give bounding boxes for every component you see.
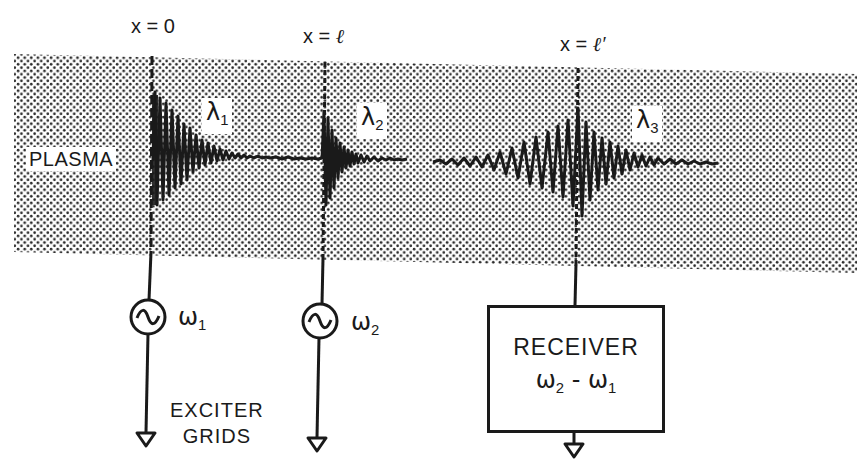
omega-symbol: ω [588, 366, 608, 394]
frequency-label-omega2: ω2 [351, 310, 379, 338]
lambda-subscript: 1 [220, 112, 228, 128]
ac-source-icon [131, 300, 165, 334]
exciter-label-line2: GRIDS [170, 423, 264, 449]
omega-symbol: ω [178, 303, 198, 331]
position-var: x [560, 33, 570, 55]
ac-source-icon [303, 304, 337, 338]
ground-icon [308, 438, 326, 451]
position-eq: = [141, 15, 164, 37]
position-value: ℓ′ [593, 33, 606, 55]
exciter-grids-label: EXCITER GRIDS [170, 397, 264, 449]
position-var: x [303, 25, 313, 47]
lambda-symbol: λ [206, 98, 220, 126]
plasma-echo-diagram [0, 0, 864, 470]
position-eq: = [313, 25, 336, 47]
position-label-xl: x = ℓ [303, 26, 344, 46]
wavelength-label-lambda1: λ1 [202, 98, 232, 134]
omega-symbol: ω [536, 366, 556, 394]
omega-subscript: 1 [608, 380, 616, 396]
lambda-subscript: 2 [375, 117, 383, 133]
plasma-column [14, 54, 857, 273]
position-value: ℓ [336, 25, 344, 47]
wavelength-label-lambda2: λ2 [357, 103, 387, 139]
position-label-xl-prime: x = ℓ′ [560, 34, 606, 54]
position-var: x [131, 15, 141, 37]
ground-icon [565, 444, 583, 457]
omega-subscript: 2 [556, 380, 564, 396]
exciter-label-line1: EXCITER [170, 397, 264, 423]
position-eq: = [570, 33, 593, 55]
omega-symbol: ω [351, 308, 371, 336]
wavelength-label-lambda3: λ3 [632, 106, 662, 142]
position-label-x0: x = 0 [131, 16, 175, 36]
frequency-label-omega1: ω1 [178, 305, 206, 333]
receiver-box: RECEIVER ω2 - ω1 [487, 305, 665, 433]
minus-operator: - [564, 366, 588, 394]
lambda-symbol: λ [636, 106, 650, 134]
position-value: 0 [164, 15, 175, 37]
lambda-subscript: 3 [650, 120, 658, 136]
receiver-formula: ω2 - ω1 [490, 366, 662, 396]
omega-subscript: 2 [371, 322, 379, 338]
ground-icon [137, 433, 155, 446]
plasma-label: PLASMA [26, 147, 116, 171]
lambda-symbol: λ [361, 103, 375, 131]
omega-subscript: 1 [198, 317, 206, 333]
receiver-title: RECEIVER [490, 334, 662, 361]
